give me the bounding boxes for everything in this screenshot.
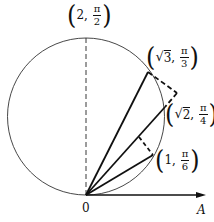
dashed-perp-lower bbox=[139, 137, 153, 155]
label-r: 1 bbox=[164, 154, 172, 166]
label-theta: π 2 bbox=[93, 4, 102, 27]
theta-den: 3 bbox=[181, 58, 187, 69]
sqrt-icon: √2 bbox=[174, 107, 190, 121]
theta-num: π bbox=[93, 4, 102, 16]
label-r: 3 bbox=[164, 50, 172, 64]
origin-label: 0 bbox=[82, 202, 90, 214]
label-point-one: ( 1, π 6 ) bbox=[155, 148, 200, 172]
label-point-sqrt3: ( √3, π 3 ) bbox=[146, 45, 199, 69]
axis-label: A bbox=[197, 204, 206, 216]
label-r: 2 bbox=[183, 107, 191, 121]
axis-arrow-icon bbox=[196, 192, 206, 198]
label-r: 2 bbox=[76, 9, 84, 21]
ray-pi-4 bbox=[86, 107, 165, 195]
theta-num: π bbox=[199, 103, 208, 115]
label-point-sqrt2: ( √2, π 4 ) bbox=[165, 102, 214, 126]
circle bbox=[8, 38, 165, 195]
theta-den: 4 bbox=[200, 115, 206, 126]
label-theta: π 6 bbox=[181, 149, 190, 172]
label-sep: , bbox=[171, 51, 175, 63]
label-theta: π 3 bbox=[180, 46, 189, 69]
label-sep: , bbox=[172, 154, 176, 166]
label-point-top: ( 2, π 2 ) bbox=[67, 3, 112, 27]
label-sep: , bbox=[84, 9, 88, 21]
theta-num: π bbox=[180, 46, 189, 58]
polar-diagram: ( 2, π 2 ) ( √3, π 3 ) ( √2, π 4 ) ( 1, … bbox=[0, 0, 214, 222]
theta-den: 6 bbox=[182, 161, 188, 172]
label-theta: π 4 bbox=[199, 103, 208, 126]
sqrt-icon: √3 bbox=[155, 50, 171, 64]
theta-den: 2 bbox=[94, 16, 100, 27]
label-sep: , bbox=[190, 108, 194, 120]
theta-num: π bbox=[181, 149, 190, 161]
